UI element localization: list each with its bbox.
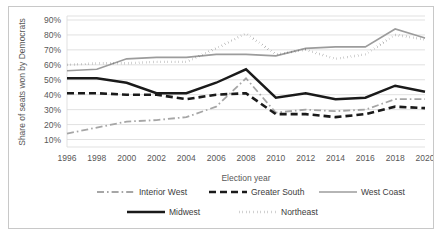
legend-label-midwest: Midwest [169, 207, 201, 217]
x-tick-label: 2014 [326, 153, 345, 163]
legend-label-west-coast: West Coast [361, 187, 405, 197]
y-tick-label: 30% [44, 105, 61, 115]
y-axis-title: Share of seats won by Democrats [17, 18, 27, 146]
line-chart: 10%20%30%40%50%60%70%80%90% 199619982000… [9, 7, 433, 228]
x-tick-label: 2018 [386, 153, 405, 163]
x-tick-label: 2004 [177, 153, 196, 163]
x-tick-label: 2006 [207, 153, 226, 163]
series-line-interior-west [67, 78, 425, 133]
x-tick-label: 2000 [117, 153, 136, 163]
y-tick-label: 50% [44, 75, 61, 85]
x-tick-label: 2020 [416, 153, 433, 163]
y-tick-label: 10% [44, 135, 61, 145]
x-tick-label: 2016 [356, 153, 375, 163]
x-tick-label: 2008 [237, 153, 256, 163]
chart-container: 10%20%30%40%50%60%70%80%90% 199619982000… [8, 6, 434, 229]
x-tick-label: 1996 [58, 153, 77, 163]
x-tick-label: 1998 [87, 153, 106, 163]
chart-legend: Interior WestGreater SouthWest CoastMidw… [97, 187, 405, 217]
x-tick-label: 2002 [147, 153, 166, 163]
x-tick-label: 2010 [266, 153, 285, 163]
x-tick-label: 2012 [296, 153, 315, 163]
y-tick-label: 90% [44, 15, 61, 25]
y-tick-label: 70% [44, 45, 61, 55]
legend-label-interior-west: Interior West [139, 187, 188, 197]
y-tick-label: 40% [44, 90, 61, 100]
y-tick-label: 60% [44, 60, 61, 70]
x-axis-tick-labels: 1996199820002002200420062008201020122014… [58, 153, 433, 163]
y-tick-label: 80% [44, 30, 61, 40]
y-axis-tick-labels: 10%20%30%40%50%60%70%80%90% [44, 15, 61, 145]
series-line-greater-south [67, 93, 425, 117]
data-series-group [67, 29, 425, 134]
x-axis-title: Election year [221, 173, 270, 183]
legend-label-northeast: Northeast [281, 207, 318, 217]
legend-label-greater-south: Greater South [251, 187, 305, 197]
y-tick-label: 20% [44, 120, 61, 130]
